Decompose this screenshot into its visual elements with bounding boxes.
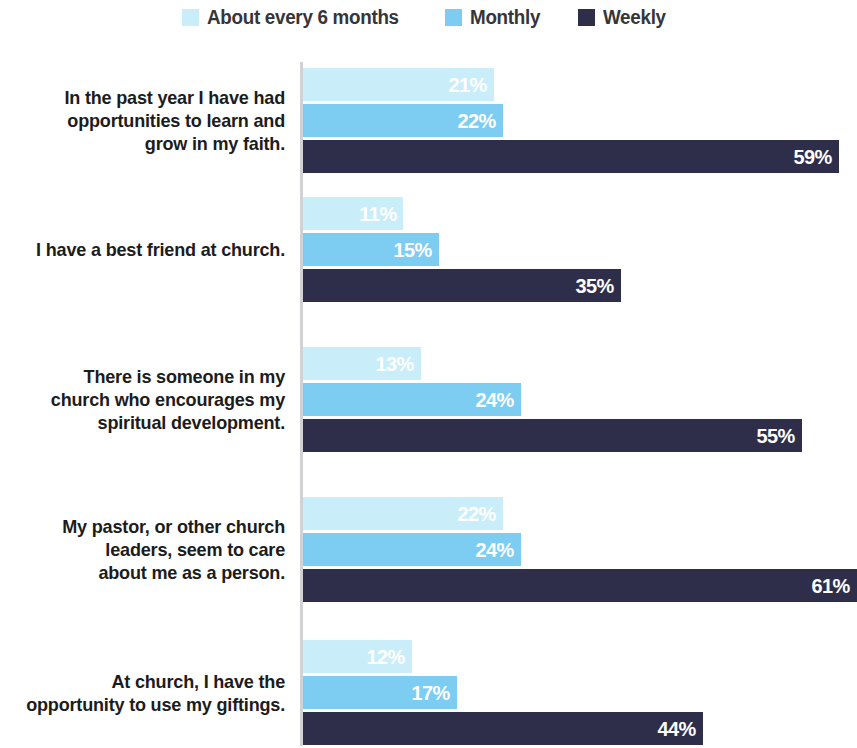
bar[interactable]: 59% [303,140,839,173]
category-label-line: My pastor, or other church [62,516,285,537]
bar[interactable]: 22% [303,497,503,530]
chart-plot-area: In the past year I have hadopportunities… [0,56,852,748]
legend-label: About every 6 months [207,6,399,29]
bar-group: At church, I have theopportunity to use … [0,640,852,745]
category-label-line: opportunities to learn and [67,110,285,131]
chart-legend: About every 6 monthsMonthlyWeekly [0,0,852,34]
bar[interactable]: 55% [303,419,802,452]
bar-stack: 13%24%55% [303,347,802,452]
category-label: At church, I have theopportunity to use … [14,670,285,716]
category-label-line: There is someone in my [84,366,285,387]
category-label-line: spiritual development. [98,412,285,433]
bar-stack: 22%24%61% [303,497,857,602]
legend-swatch-icon [182,9,199,26]
bar-value-label: 55% [757,424,802,448]
bar-value-label: 59% [794,145,839,169]
bar[interactable]: 17% [303,676,457,709]
bar-value-label: 17% [412,681,457,705]
bar-group: In the past year I have hadopportunities… [0,68,852,173]
legend-item[interactable]: Monthly [445,6,545,29]
bar[interactable]: 44% [303,712,703,745]
category-label: In the past year I have hadopportunities… [14,86,285,155]
bar-value-label: 13% [376,352,421,376]
bar-group: There is someone in mychurch who encoura… [0,347,852,452]
bar[interactable]: 61% [303,569,857,602]
legend-item[interactable]: Weekly [578,6,670,29]
legend-swatch-icon [445,9,462,26]
bar-value-label: 44% [658,717,703,741]
bar-group: I have a best friend at church.11%15%35% [0,197,852,302]
bar[interactable]: 12% [303,640,412,673]
bar-value-label: 22% [458,109,503,133]
bar-value-label: 35% [576,274,621,298]
category-label-line: opportunity to use my giftings. [26,694,285,715]
category-label: My pastor, or other churchleaders, seem … [14,515,285,584]
category-label-line: In the past year I have had [64,87,285,108]
category-label-line: leaders, seem to care [105,539,285,560]
bar-value-label: 22% [458,502,503,526]
bar[interactable]: 22% [303,104,503,137]
bar-stack: 21%22%59% [303,68,839,173]
bar[interactable]: 24% [303,383,521,416]
bar[interactable]: 13% [303,347,421,380]
bar[interactable]: 15% [303,233,439,266]
bar-stack: 12%17%44% [303,640,703,745]
category-label-line: I have a best friend at church. [36,239,285,260]
bar-value-label: 12% [367,645,412,669]
legend-swatch-icon [578,9,595,26]
category-label-line: At church, I have the [111,671,285,692]
bar-group: My pastor, or other churchleaders, seem … [0,497,852,602]
category-label: There is someone in mychurch who encoura… [14,365,285,434]
category-label: I have a best friend at church. [14,238,285,261]
bar[interactable]: 11% [303,197,403,230]
bar-value-label: 24% [476,388,521,412]
bar-stack: 11%15%35% [303,197,621,302]
category-label-line: about me as a person. [98,562,285,583]
bar[interactable]: 21% [303,68,494,101]
bar-value-label: 21% [449,73,494,97]
bar-value-label: 15% [394,238,439,262]
legend-label: Monthly [470,6,540,29]
category-label-line: church who encourages my [51,389,285,410]
bar[interactable]: 24% [303,533,521,566]
legend-label: Weekly [603,6,666,29]
bar[interactable]: 35% [303,269,621,302]
category-label-line: grow in my faith. [145,133,285,154]
bar-value-label: 11% [359,202,403,226]
bar-value-label: 24% [476,538,521,562]
legend-item[interactable]: About every 6 months [182,6,411,29]
bar-value-label: 61% [812,574,857,598]
